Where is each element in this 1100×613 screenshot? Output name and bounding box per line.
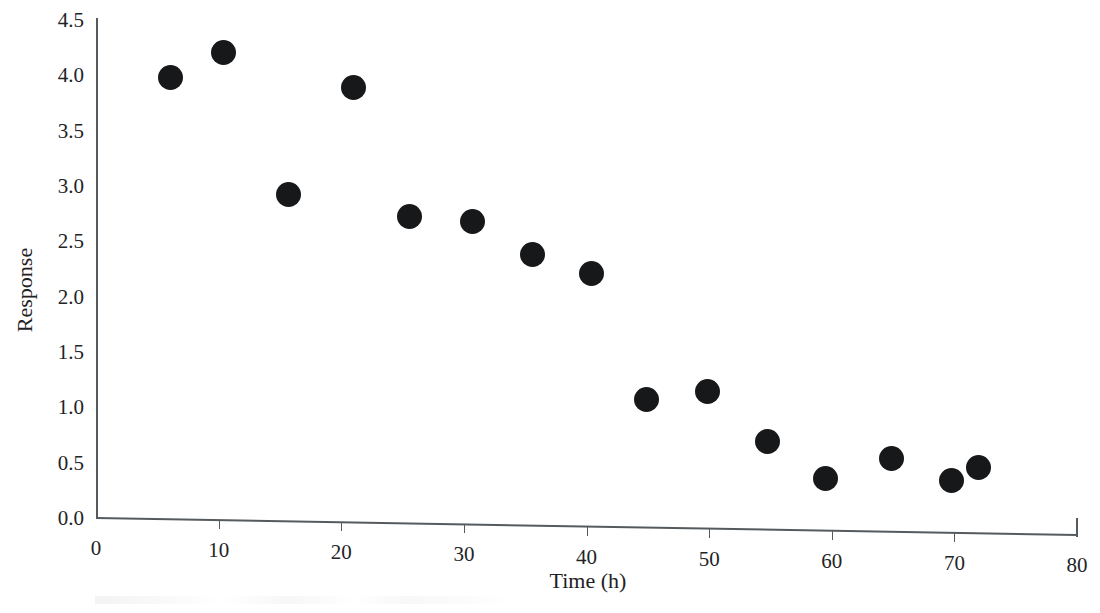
x-tick-label: 60 <box>821 551 842 572</box>
x-tick-label: 0 <box>91 538 102 559</box>
x-tick-label: 20 <box>331 542 352 563</box>
x-tick-label: 70 <box>944 553 965 574</box>
y-tick-label: 1.0 <box>28 397 84 418</box>
x-tick-mark <box>954 533 955 542</box>
data-point <box>341 75 366 100</box>
x-tick-label: 80 <box>1067 555 1088 576</box>
y-axis-title: Response <box>12 248 38 332</box>
x-axis-title: Time (h) <box>550 568 627 594</box>
y-tick-label: 4.5 <box>28 10 84 31</box>
x-tick-mark <box>709 529 710 538</box>
y-tick-label: 0.0 <box>28 508 84 529</box>
data-point <box>879 446 904 471</box>
data-point <box>966 455 991 480</box>
x-tick-label: 40 <box>576 547 597 568</box>
y-tick-label: 3.0 <box>28 176 84 197</box>
data-point <box>579 261 604 286</box>
data-point <box>211 40 236 65</box>
x-tick-mark <box>464 524 465 533</box>
x-axis-line <box>0 0 1100 613</box>
x-tick-label: 10 <box>208 540 229 561</box>
x-tick-mark <box>832 531 833 540</box>
y-tick-label: 3.5 <box>28 120 84 141</box>
x-tick-mark <box>587 527 588 536</box>
scatter-chart-figure: 01020304050607080 0.00.51.01.52.02.53.03… <box>0 0 1100 613</box>
scan-artifact <box>95 596 515 604</box>
y-tick-label: 4.0 <box>28 65 84 86</box>
x-tick-label: 30 <box>453 544 474 565</box>
data-point <box>520 242 545 267</box>
data-point <box>460 209 485 234</box>
x-tick-mark <box>341 522 342 531</box>
y-tick-label: 0.5 <box>28 452 84 473</box>
data-point <box>634 387 659 412</box>
y-tick-label: 1.5 <box>28 342 84 363</box>
plot-area: 01020304050607080 0.00.51.01.52.02.53.03… <box>0 0 1100 613</box>
x-tick-label: 50 <box>699 549 720 570</box>
x-tick-mark <box>219 520 220 529</box>
data-point <box>813 466 838 491</box>
